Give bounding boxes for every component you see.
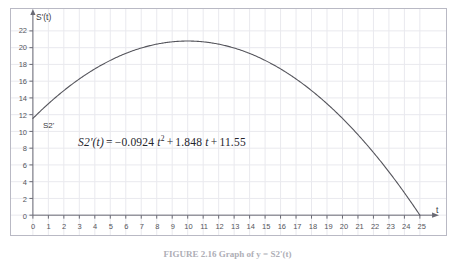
equation-linear-coefficient: 1.848 (175, 136, 202, 148)
equation-quadratic-coefficient: −0.0924 (115, 136, 155, 148)
x-tick-label: 14 (247, 223, 255, 231)
x-tick-label: 18 (309, 223, 317, 231)
x-tick-label: 5 (109, 223, 113, 231)
x-tick-label: 1 (46, 223, 50, 231)
y-tick-label: 18 (12, 61, 27, 69)
x-tick-label: 19 (324, 223, 332, 231)
y-tick-label: 16 (12, 78, 27, 86)
plot-frame: 0123456789101112131415161718192021222324… (10, 8, 447, 236)
equation-constant: 11.55 (219, 136, 245, 148)
x-tick-label: 6 (124, 223, 128, 231)
curve-series-label: S2' (43, 121, 54, 130)
equation-annotation: S2'(t)=−0.0924 t2+1.848 t+11.55 (78, 134, 246, 148)
y-axis-label: S'(t) (36, 12, 51, 22)
x-tick-label: 22 (371, 223, 379, 231)
y-tick-label: 20 (12, 44, 27, 52)
x-tick-label: 10 (184, 223, 192, 231)
x-tick-label: 11 (200, 223, 208, 231)
x-tick-label: 21 (355, 223, 363, 231)
y-tick-label: 10 (12, 129, 27, 137)
x-tick-label: 2 (62, 223, 66, 231)
x-tick-label: 16 (278, 223, 286, 231)
equation-plus-first: + (165, 136, 176, 148)
x-tick-label: 15 (262, 223, 270, 231)
equation-equals: = (104, 136, 115, 148)
x-tick-label: 7 (140, 223, 144, 231)
figure-graph-s2-prime: 0123456789101112131415161718192021222324… (0, 0, 455, 259)
y-tick-label: 8 (12, 146, 27, 154)
x-tick-label: 3 (78, 223, 82, 231)
x-tick-label: 13 (231, 223, 239, 231)
y-tick-label: 6 (12, 163, 27, 171)
x-tick-label: 9 (171, 223, 175, 231)
x-tick-label: 17 (293, 223, 301, 231)
x-tick-label: 24 (402, 223, 410, 231)
y-tick-label: 2 (12, 196, 27, 204)
x-tick-label: 20 (340, 223, 348, 231)
x-tick-label: 23 (386, 223, 394, 231)
y-tick-label: 12 (12, 112, 27, 120)
y-tick-label: 22 (12, 27, 27, 35)
equation-lhs: S2'(t) (78, 136, 104, 148)
x-tick-label: 4 (93, 223, 97, 231)
x-tick-label: 0 (31, 223, 35, 231)
y-tick-label: 0 (12, 213, 27, 221)
figure-caption: FIGURE 2.16 Graph of y = S2'(t) (0, 249, 455, 259)
equation-plus-second: + (209, 136, 220, 148)
x-axis-label: t (436, 205, 438, 215)
tick-label-layer: 0123456789101112131415161718192021222324… (11, 9, 446, 235)
x-tick-label: 8 (155, 223, 159, 231)
x-tick-label: 25 (418, 223, 426, 231)
y-tick-label: 14 (12, 95, 27, 103)
y-tick-label: 4 (12, 179, 27, 187)
x-tick-label: 12 (215, 223, 223, 231)
